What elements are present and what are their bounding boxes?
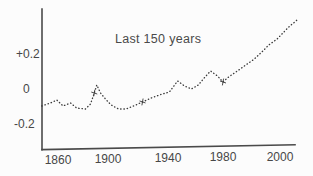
y-tick-label-neg02: -0.2 [14, 117, 35, 131]
x-tick-label-1900: 1900 [95, 152, 122, 166]
y-tick-label-pos02: +0.2 [16, 47, 40, 61]
x-tick-label-1980: 1980 [210, 150, 237, 164]
x-tick-label-1860: 1860 [45, 153, 72, 167]
curve-tick-mark [91, 90, 97, 97]
curve-tick-mark [140, 99, 146, 106]
x-tick-label-2000: 2000 [267, 150, 294, 164]
temperature-anomaly-figure: Last 150 years +0.2 0 -0.2 1860 1900 194… [0, 0, 313, 176]
chart-title: Last 150 years [115, 32, 201, 46]
x-tick-label-1940: 1940 [155, 151, 182, 165]
y-tick-label-zero: 0 [23, 82, 30, 96]
curve-marks [91, 79, 226, 106]
x-axis-line [42, 145, 295, 150]
chart-canvas: Last 150 years +0.2 0 -0.2 1860 1900 194… [0, 0, 313, 176]
